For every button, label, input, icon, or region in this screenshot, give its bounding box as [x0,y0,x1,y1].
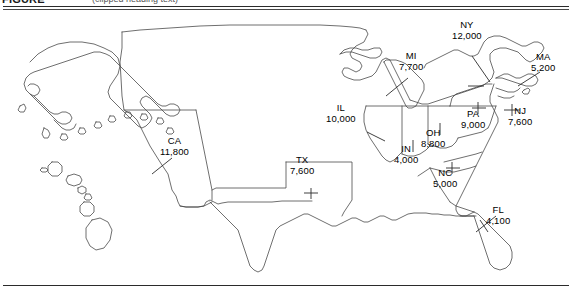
header-rule-top [3,6,569,7]
state-abbr-mi: MI [399,51,423,62]
footer-rule [3,285,569,286]
state-value-nc: 5,000 [433,179,457,190]
state-label-mi: MI 7,700 [399,51,423,72]
state-value-mi: 7,700 [399,62,423,73]
state-abbr-oh: OH [421,128,445,139]
state-abbr-ma: MA [531,52,555,63]
state-abbr-fl: FL [486,205,510,216]
figure-container: FIGURE (clipped heading text) [0,0,573,298]
state-value-pa: 9,000 [461,120,485,131]
leader-lines [152,56,540,232]
state-abbr-nj: NJ [508,106,532,117]
figure-subtitle: (clipped heading text) [92,0,178,4]
state-abbr-nc: NC [433,168,457,179]
state-abbr-tx: TX [290,155,314,166]
state-value-nj: 7,600 [508,117,532,128]
state-abbr-in: IN [394,144,418,155]
state-value-ma: 5,200 [531,63,555,74]
leader-line-mi [386,78,408,96]
us-map [0,10,573,282]
state-label-ma: MA 5,200 [531,52,555,73]
state-value-ny: 12,000 [452,31,482,42]
state-label-pa: PA 9,000 [461,109,485,130]
state-value-in: 4,000 [394,155,418,166]
state-label-ca: CA 11,800 [160,136,189,157]
state-label-tx: TX 7,600 [290,155,314,176]
state-label-in: IN 4,000 [394,144,418,165]
state-abbr-ny: NY [452,20,482,31]
state-label-nc: NC 5,000 [433,168,457,189]
state-label-ny: NY 12,000 [452,20,482,41]
state-label-il: IL 10,000 [326,103,356,124]
state-value-fl: 4,100 [486,216,510,227]
state-abbr-il: IL [326,103,356,114]
leader-line-ca [152,158,172,174]
state-value-tx: 7,600 [290,166,314,177]
state-value-oh: 8,800 [421,139,445,150]
map-outlines [18,25,544,272]
state-abbr-ca: CA [160,136,189,147]
leader-line-il [367,132,385,141]
state-abbr-pa: PA [461,109,485,120]
state-value-il: 10,000 [326,114,356,125]
state-label-nj: NJ 7,600 [508,106,532,127]
state-label-oh: OH 8,800 [421,128,445,149]
state-value-ca: 11,800 [160,147,189,158]
leader-line-ny [472,56,490,82]
state-label-fl: FL 4,100 [486,205,510,226]
figure-title: FIGURE [2,0,45,5]
